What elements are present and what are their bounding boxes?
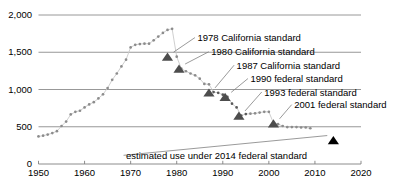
data-point	[254, 112, 257, 115]
x-tick-label-1950: 1950	[19, 168, 59, 178]
data-point	[51, 132, 54, 135]
data-point	[217, 92, 220, 95]
data-point	[244, 113, 247, 116]
x-axis-ticks	[39, 161, 362, 164]
leader-line-std-1990-federal	[231, 79, 248, 93]
x-tick-label-1960: 1960	[65, 168, 105, 178]
annotation-label-std-1993-federal: 1993 federal standard	[264, 87, 356, 98]
y-tick-label-500: 500	[0, 122, 32, 132]
annotation-label-std-1990-federal: 1990 federal standard	[250, 73, 342, 84]
data-point	[129, 46, 132, 49]
data-point	[291, 126, 294, 129]
data-point	[189, 72, 192, 75]
data-point	[42, 134, 45, 137]
data-point	[157, 35, 160, 38]
data-point	[60, 125, 63, 128]
x-tick-label-1980: 1980	[157, 168, 197, 178]
annotation-label-std-2014-federal-estimated: estimated use under 2014 federal standar…	[126, 150, 307, 161]
x-tick-label-2000: 2000	[249, 168, 289, 178]
y-tick-label-1500: 1,500	[0, 47, 32, 57]
leader-line-std-1987-california	[215, 65, 234, 88]
data-point	[263, 111, 266, 114]
data-point	[148, 42, 151, 45]
leader-line-std-1980-california	[185, 52, 209, 64]
data-point	[83, 106, 86, 109]
energy-use-chart: 05001,0001,5002,000 19501960197019801990…	[0, 0, 402, 195]
data-point	[171, 27, 174, 30]
data-point	[258, 111, 261, 114]
data-point	[46, 133, 49, 136]
data-point	[300, 126, 303, 129]
data-point	[125, 58, 128, 61]
data-point	[286, 126, 289, 129]
data-point	[166, 29, 169, 32]
data-point	[175, 55, 178, 58]
x-tick-label-1970: 1970	[111, 168, 151, 178]
data-point	[65, 120, 68, 123]
data-point	[295, 126, 298, 129]
data-point	[139, 43, 142, 46]
data-point	[134, 43, 137, 46]
data-point	[152, 39, 155, 42]
x-tick-label-2020: 2020	[341, 168, 381, 178]
data-point	[162, 32, 165, 35]
annotation-label-std-1987-california: 1987 California standard	[237, 60, 341, 71]
data-point	[281, 125, 284, 128]
data-point	[194, 74, 197, 77]
data-point	[115, 72, 118, 75]
data-point	[268, 111, 271, 114]
leader-line-std-1993-federal	[245, 92, 262, 111]
data-point	[69, 113, 72, 116]
data-point	[102, 93, 105, 96]
data-point	[208, 83, 211, 86]
marker-triangle-std-2014-federal-estimated	[328, 136, 339, 144]
data-point	[198, 77, 201, 80]
data-point	[92, 101, 95, 104]
data-point	[56, 130, 59, 133]
leader-line-std-2001-federal	[280, 105, 292, 119]
data-point	[120, 65, 123, 68]
data-point	[203, 83, 206, 86]
data-point	[235, 106, 238, 109]
data-point	[106, 87, 109, 90]
data-point	[79, 109, 82, 112]
y-tick-label-1000: 1,000	[0, 85, 32, 95]
marker-triangle-std-1980-california	[173, 65, 184, 73]
chart-canvas	[0, 0, 402, 195]
leader-line-std-1978-california	[174, 38, 195, 53]
data-point	[88, 103, 91, 106]
data-point	[212, 91, 215, 94]
data-point	[249, 112, 252, 115]
annotation-label-std-1978-california: 1978 California standard	[197, 32, 301, 43]
marker-triangle-std-1978-california	[162, 53, 173, 61]
data-point	[74, 111, 77, 114]
marker-triangle-std-1993-federal	[233, 111, 244, 119]
data-point	[143, 42, 146, 45]
annotation-label-std-2001-federal: 2001 federal standard	[294, 99, 386, 110]
data-point	[111, 78, 114, 81]
y-tick-label-2000: 2,000	[0, 10, 32, 20]
data-point	[97, 97, 100, 100]
data-point	[37, 135, 40, 138]
data-point	[309, 127, 312, 130]
x-tick-label-1990: 1990	[203, 168, 243, 178]
x-tick-label-2010: 2010	[295, 168, 335, 178]
data-point	[304, 126, 307, 129]
data-point	[185, 70, 188, 73]
annotation-label-std-1980-california: 1980 California standard	[211, 46, 315, 57]
data-point	[231, 102, 234, 105]
